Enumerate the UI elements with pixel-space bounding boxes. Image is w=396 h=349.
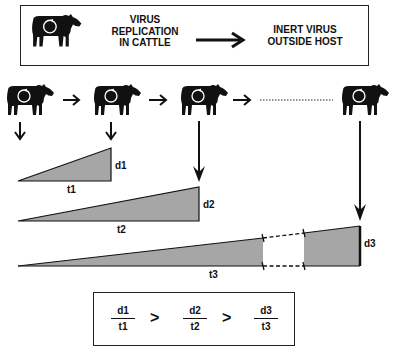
cow-icon bbox=[7, 84, 54, 115]
d3-label: d3 bbox=[364, 238, 376, 250]
t1-label: t1 bbox=[67, 184, 76, 196]
triangle-t2-d2 bbox=[18, 187, 199, 221]
diagram-graphics bbox=[0, 0, 396, 349]
d2-label: d2 bbox=[203, 199, 215, 211]
triangle-t3-d3 bbox=[18, 226, 360, 270]
t2-label: t2 bbox=[117, 224, 126, 236]
cow-icon bbox=[342, 84, 389, 115]
t3-label: t3 bbox=[209, 269, 218, 281]
triangle-t1-d1 bbox=[18, 148, 111, 181]
down-arrow-icon bbox=[193, 121, 205, 182]
down-arrow-icon bbox=[15, 122, 25, 139]
right-arrow-icon bbox=[149, 95, 166, 105]
right-arrow-icon bbox=[233, 95, 250, 105]
down-arrow-icon bbox=[106, 122, 116, 139]
right-arrow-icon bbox=[196, 33, 243, 47]
cow-icon bbox=[32, 14, 81, 47]
cow-icon bbox=[181, 84, 228, 115]
d1-label: d1 bbox=[115, 160, 127, 172]
down-arrow-icon bbox=[354, 121, 366, 221]
cow-icon bbox=[94, 84, 141, 115]
right-arrow-icon bbox=[63, 95, 79, 105]
